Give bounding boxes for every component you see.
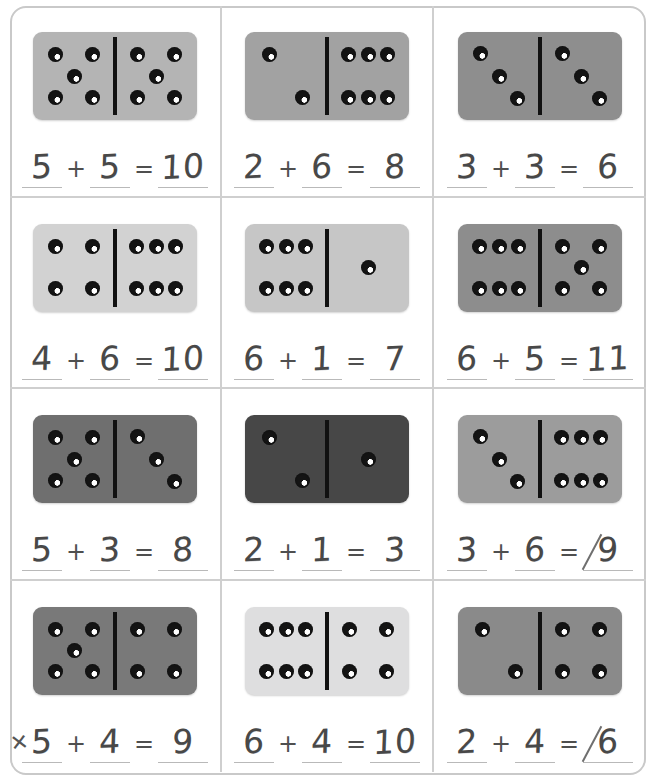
domino-pip — [379, 664, 394, 679]
domino-pip — [129, 239, 144, 254]
domino-pip — [279, 664, 294, 679]
addend1-blank[interactable]: 6 — [234, 726, 274, 763]
answer-blank[interactable]: 8 — [158, 534, 208, 571]
problem-cell: 2+4=6 — [434, 581, 646, 773]
domino-pip — [67, 452, 82, 467]
domino-half-left — [458, 607, 540, 695]
domino-pip — [342, 622, 357, 637]
domino-pip — [298, 664, 313, 679]
answer-blank[interactable]: 6 — [583, 151, 633, 188]
domino-half-left — [245, 32, 327, 120]
problem-cell: 3+6=9 — [434, 389, 646, 581]
domino-pip — [379, 622, 394, 637]
domino-container — [33, 28, 197, 124]
answer-blank[interactable]: 3 — [370, 534, 420, 571]
domino-pip — [48, 90, 63, 105]
addend2-blank[interactable]: 3 — [90, 534, 130, 571]
answer-blank[interactable]: 10 — [158, 151, 208, 188]
domino-pip — [574, 260, 589, 275]
domino-pip — [130, 47, 145, 62]
domino-tile — [245, 607, 409, 695]
domino-tile — [33, 224, 197, 312]
equation-row: 6+5=11 — [434, 322, 646, 380]
equals-operator: = — [134, 729, 154, 763]
addend1-blank[interactable]: ✕5 — [22, 726, 62, 763]
answer-blank[interactable]: 10 — [370, 726, 420, 763]
domino-pip — [167, 90, 182, 105]
domino-half-left — [245, 607, 327, 695]
domino-half-right — [115, 32, 197, 120]
domino-pip — [130, 429, 145, 444]
plus-operator: + — [278, 346, 298, 380]
handwritten-number: 11 — [586, 341, 631, 375]
domino-pip — [361, 90, 376, 105]
domino-pip — [380, 90, 395, 105]
domino-pip — [149, 239, 164, 254]
answer-blank[interactable]: 9 — [583, 534, 633, 571]
plus-operator: + — [278, 729, 298, 763]
domino-pip — [510, 91, 525, 106]
problem-cell: 3+3=6 — [434, 6, 646, 198]
domino-container — [245, 603, 409, 699]
domino-tile — [458, 32, 622, 120]
equals-operator: = — [134, 537, 154, 571]
addend1-blank[interactable]: 6 — [447, 343, 487, 380]
domino-pip — [361, 47, 376, 62]
addend2-blank[interactable]: 1 — [302, 343, 342, 380]
answer-blank[interactable]: 10 — [158, 343, 208, 380]
domino-pip — [167, 622, 182, 637]
addend1-blank[interactable]: 2 — [234, 151, 274, 188]
domino-pip — [554, 473, 569, 488]
domino-pip — [67, 69, 82, 84]
addend2-blank[interactable]: 3 — [515, 151, 555, 188]
answer-blank[interactable]: 7 — [370, 343, 420, 380]
addend2-blank[interactable]: 1 — [302, 534, 342, 571]
domino-half-right — [540, 607, 622, 695]
addend1-blank[interactable]: 2 — [234, 534, 274, 571]
domino-pip — [298, 281, 313, 296]
problem-cell: 4+6=10 — [10, 198, 222, 390]
domino-pip — [167, 664, 182, 679]
addend2-blank[interactable]: 6 — [90, 343, 130, 380]
addend2-blank[interactable]: 6 — [302, 151, 342, 188]
addend2-blank[interactable]: 4 — [302, 726, 342, 763]
equals-operator: = — [559, 729, 579, 763]
answer-blank[interactable]: 9 — [158, 726, 208, 763]
addend1-blank[interactable]: 4 — [22, 343, 62, 380]
domino-pip — [85, 664, 100, 679]
addend1-blank[interactable]: 3 — [447, 151, 487, 188]
answer-blank[interactable]: 6 — [583, 726, 633, 763]
domino-pip — [67, 643, 82, 658]
domino-pip — [48, 664, 63, 679]
domino-pip — [380, 47, 395, 62]
domino-pip — [592, 91, 607, 106]
domino-pip — [85, 239, 100, 254]
domino-container — [33, 220, 197, 316]
domino-half-left — [245, 415, 327, 503]
answer-blank[interactable]: 8 — [370, 151, 420, 188]
answer-blank[interactable]: 11 — [583, 343, 633, 380]
addend2-blank[interactable]: 6 — [515, 534, 555, 571]
addend1-blank[interactable]: 2 — [447, 726, 487, 763]
addend2-blank[interactable]: 5 — [90, 151, 130, 188]
domino-pip — [48, 239, 63, 254]
handwritten-number: 1 — [310, 533, 333, 566]
addend1-blank[interactable]: 5 — [22, 151, 62, 188]
equals-operator: = — [346, 537, 366, 571]
domino-pip — [492, 69, 507, 84]
addend2-blank[interactable]: 4 — [515, 726, 555, 763]
handwritten-number: 9 — [597, 533, 620, 566]
problem-cell: 6+1=7 — [222, 198, 434, 390]
domino-tile — [33, 607, 197, 695]
addend1-blank[interactable]: 5 — [22, 534, 62, 571]
domino-pip — [130, 622, 145, 637]
addend1-blank[interactable]: 6 — [234, 343, 274, 380]
handwritten-number: 8 — [384, 150, 407, 183]
addend2-blank[interactable]: 4 — [90, 726, 130, 763]
domino-pip — [85, 281, 100, 296]
addend1-blank[interactable]: 3 — [447, 534, 487, 571]
domino-container — [33, 603, 197, 699]
domino-pip — [341, 47, 356, 62]
addend2-blank[interactable]: 5 — [515, 343, 555, 380]
domino-pip — [511, 281, 526, 296]
